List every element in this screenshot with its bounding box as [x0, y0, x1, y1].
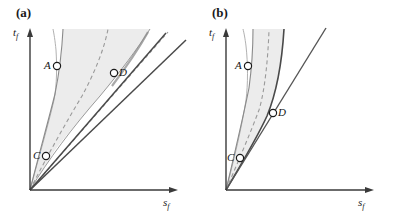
panel-a-point-C-marker — [42, 152, 49, 159]
panel-b-point-C-label: C — [227, 151, 234, 163]
panel-a-point-D-marker — [110, 69, 117, 76]
panel-b-point-D-marker — [269, 109, 276, 116]
panel-b-x-axis-label: sf — [358, 196, 365, 211]
panel-b-x-axis-arrowhead — [365, 187, 374, 193]
panel-a-plot — [0, 0, 198, 215]
panel-b-plot — [198, 0, 396, 215]
panel-a-point-D-label: D — [119, 66, 127, 78]
panel-a-x-axis-arrowhead — [169, 187, 178, 193]
panel-a-y-axis-arrowhead — [27, 28, 33, 37]
panel-a-point-C-label: C — [33, 149, 40, 161]
panel-b-point-C-marker — [236, 154, 243, 161]
panel-b-point-D-label: D — [278, 106, 286, 118]
panel-b-point-A-label: A — [235, 59, 242, 71]
panel-b-point-A-marker — [244, 62, 251, 69]
panel-a-point-A-label: A — [44, 59, 51, 71]
panel-a-x-axis-label: sf — [163, 196, 170, 211]
panel-a-point-A-marker — [53, 62, 60, 69]
panel-b-y-axis-arrowhead — [223, 28, 229, 37]
panel-b: (b) — [198, 0, 396, 215]
panel-a-y-axis-label: tf — [13, 26, 18, 41]
panel-b-y-axis-label: tf — [209, 26, 214, 41]
panel-a-shaded-region — [30, 29, 150, 190]
figure-root: (a) — [0, 0, 396, 215]
panel-a: (a) — [0, 0, 198, 215]
